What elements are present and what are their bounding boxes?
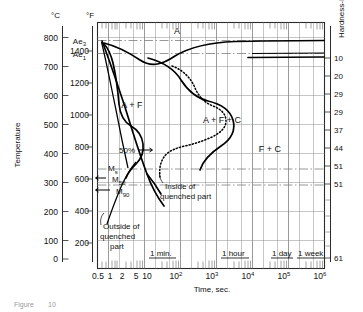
fifty-percent-arrow [139, 148, 153, 152]
figure-caption-number: 10 [48, 301, 56, 308]
outside-quenched-line1: Outside of [103, 222, 140, 231]
celsius-tick-500: 500 [44, 120, 58, 130]
celsius-tick-0: 0 [53, 254, 58, 264]
time-marker-day: 1 day [272, 249, 292, 258]
phase-label-aus-ferrite: A + F [121, 100, 143, 110]
y-axis-title: Temperature [13, 122, 22, 167]
x-tick-5: 5 [134, 271, 139, 281]
bottom-minor-ticks [102, 261, 323, 269]
fahrenheit-tick-800: 800 [75, 142, 89, 152]
x-tick-1e3: 103 [206, 271, 219, 282]
time-marker-hour: 1 hour [222, 249, 245, 258]
outside-quenched-line2: quenched [100, 232, 135, 241]
celsius-tick-300: 300 [44, 178, 58, 188]
outside-quenched-line3: part [110, 242, 125, 251]
hardness-tick-20: 20 [334, 72, 343, 81]
fahrenheit-tick-1200: 1200 [70, 78, 89, 88]
m50-arrow [96, 176, 107, 180]
figure-caption-label: Figure [14, 301, 34, 309]
top-minor-ticks [102, 23, 323, 30]
x-tick-0-5: 0.5 [92, 271, 104, 281]
m50-label: M50 [112, 175, 126, 186]
ms-label: Ms [108, 164, 118, 175]
ttt-diagram-svg: °C 800 700 600 500 400 300 200 100 0 Tem… [0, 0, 363, 312]
celsius-unit-label: °C [51, 11, 60, 20]
celsius-tick-100: 100 [44, 236, 58, 246]
x-tick-1e4: 104 [242, 271, 255, 282]
inside-quenched-line2: quenched part [160, 192, 212, 201]
ttt-diagram-figure: °C 800 700 600 500 400 300 200 100 0 Tem… [0, 0, 363, 312]
celsius-tick-800: 800 [44, 33, 58, 43]
fifty-percent-label: 50% [119, 146, 135, 155]
outside-quenched-annotation: Outside of quenched part [100, 213, 140, 251]
m90-arrow [96, 188, 111, 192]
inside-quenched-line1: Inside of [165, 182, 196, 191]
phase-label-aus-ferrite-carbide: A + F + C [203, 115, 242, 125]
x-tick-1e5: 105 [278, 271, 291, 282]
x-tick-1e6: 106 [314, 271, 327, 282]
x-tick-1e2: 102 [170, 271, 183, 282]
x-axis-tick-labels: 0.5 1 2 5 10 102 103 104 105 106 Time, s… [92, 271, 327, 295]
fahrenheit-tick-400: 400 [75, 206, 89, 216]
figure-caption: Figure 10 [14, 301, 56, 309]
fahrenheit-unit-label: °F [86, 11, 94, 20]
hardness-tick-10: 10 [334, 54, 343, 63]
fahrenheit-tick-200: 200 [75, 238, 89, 248]
fifty-percent-curve [148, 58, 234, 170]
x-tick-2: 2 [120, 271, 125, 281]
phase-label-ferrite-carbide: F + C [259, 144, 282, 154]
hardness-tick-51a: 51 [334, 162, 343, 171]
x-tick-10: 10 [142, 271, 152, 281]
cooling-paths [102, 41, 165, 224]
inside-quenched-annotation: Inside of quenched part [160, 172, 212, 201]
ae3-label: Ae3 [73, 37, 87, 48]
horizontal-gridlines [98, 38, 325, 241]
hardness-tick-51b: 51 [334, 180, 343, 189]
time-marker-week: 1 week [298, 249, 324, 258]
time-markers: 1 min. 1 hour 1 day 1 week [149, 249, 324, 258]
celsius-tick-600: 600 [44, 91, 58, 101]
fahrenheit-tick-600: 600 [75, 174, 89, 184]
celsius-tick-700: 700 [44, 62, 58, 72]
time-marker-minute: 1 min. [150, 249, 172, 258]
hardness-axis: Hardness-RC 10 20 29 29 37 44 51 51 61 [325, 0, 347, 263]
transformation-reference-lines [98, 41, 325, 186]
x-tick-1: 1 [108, 271, 113, 281]
phase-label-austenite: A [174, 26, 180, 36]
hardness-tick-44: 44 [334, 144, 343, 153]
m90-label: M90 [116, 187, 130, 198]
hardness-axis-title: Hardness-RC [337, 0, 346, 38]
celsius-tick-200: 200 [44, 207, 58, 217]
hardness-tick-29b: 29 [334, 108, 343, 117]
celsius-tick-400: 400 [44, 149, 58, 159]
hardness-tick-29a: 29 [334, 90, 343, 99]
finish-plateau-upper [252, 53, 324, 54]
hardness-tick-37: 37 [334, 126, 343, 135]
finish-plateau-lower [248, 57, 324, 58]
x-axis-title: Time, sec. [194, 285, 231, 294]
fahrenheit-tick-1000: 1000 [70, 110, 89, 120]
hardness-tick-61: 61 [334, 254, 343, 263]
austenite-boundary-upper [104, 41, 324, 65]
celsius-axis: °C 800 700 600 500 400 300 200 100 0 Tem… [13, 11, 69, 264]
fahrenheit-axis: °F 1400 1200 1000 800 600 400 200 [70, 11, 94, 262]
